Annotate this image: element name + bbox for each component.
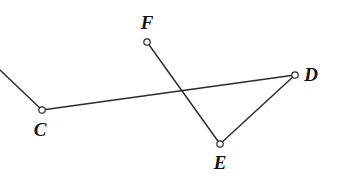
edge-F-E xyxy=(147,42,220,144)
vertex-label-d: D xyxy=(304,65,318,84)
edge-open-left-C xyxy=(0,70,42,110)
vertex-point-f xyxy=(144,39,150,45)
vertex-point-d xyxy=(292,72,298,78)
diagram-canvas xyxy=(0,0,340,189)
vertex-point-e xyxy=(217,141,223,147)
geometry-diagram: CDEF xyxy=(0,0,340,189)
vertex-point-c xyxy=(39,107,45,113)
vertex-label-e: E xyxy=(214,153,227,172)
edge-D-E xyxy=(220,75,295,144)
edge-C-D xyxy=(42,75,295,110)
vertex-label-c: C xyxy=(34,120,47,139)
vertex-label-f: F xyxy=(141,13,154,32)
